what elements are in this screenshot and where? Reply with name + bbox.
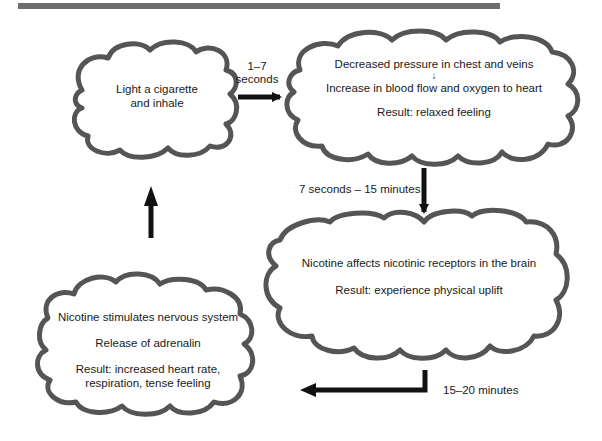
edge-label-1-7-seconds: 1–7 seconds (236, 60, 279, 86)
node-tense-result1: Result: increased heart rate, (58, 362, 238, 376)
node-tense-line2: Release of adrenalin (58, 336, 238, 350)
node-uplift-result: Result: experience physical uplift (302, 283, 536, 297)
edge-label-1-line2: seconds (236, 73, 279, 86)
arrowhead-up-icon (144, 186, 158, 206)
down-arrow-icon: ↓ (326, 71, 542, 81)
node-relax-line1: Decreased pressure in chest and veins (326, 57, 542, 71)
edge-label-1-line1: 1–7 (236, 60, 279, 73)
node-relax-text: Decreased pressure in chest and veins ↓ … (326, 57, 542, 119)
arrowhead-left-icon (300, 383, 316, 397)
node-relax-line2: Increase in blood flow and oxygen to hea… (326, 81, 542, 95)
node-light-line1: Light a cigarette (116, 82, 198, 96)
node-uplift-line1: Nicotine affects nicotinic receptors in … (302, 256, 536, 270)
node-tense-text: Nicotine stimulates nervous system Relea… (58, 310, 238, 390)
arrow-uplift-to-tense (312, 370, 425, 390)
node-uplift-text: Nicotine affects nicotinic receptors in … (302, 256, 536, 297)
node-tense-line1: Nicotine stimulates nervous system (58, 310, 238, 324)
node-light-text: Light a cigarette and inhale (116, 82, 198, 110)
node-light-line2: and inhale (116, 96, 198, 110)
edge-label-15-20m: 15–20 minutes (443, 384, 518, 397)
node-tense-result2: respiration, tense feeling (58, 376, 238, 390)
node-relax-result: Result: relaxed feeling (326, 105, 542, 119)
edge-label-7s-15m: 7 seconds – 15 minutes (299, 183, 420, 196)
